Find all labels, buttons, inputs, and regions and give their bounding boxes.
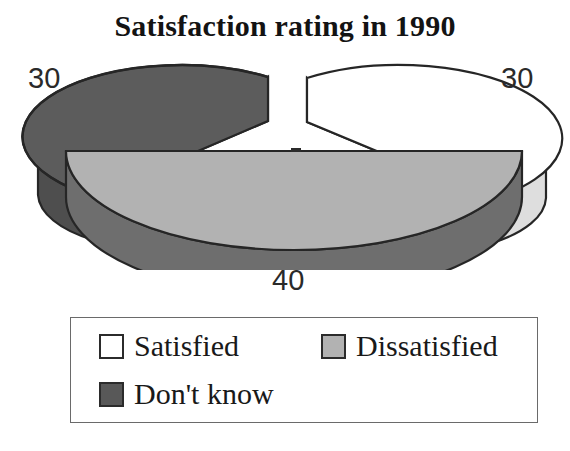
chart-title: Satisfaction rating in 1990 bbox=[0, 9, 570, 43]
legend-label-dissatisfied: Dissatisfied bbox=[356, 331, 498, 361]
legend-item-satisfied: Satisfied bbox=[99, 324, 239, 368]
legend-row: Don't know bbox=[71, 372, 537, 422]
legend-swatch-dissatisfied-icon bbox=[321, 334, 346, 359]
value-label-dont-know: 30 bbox=[28, 64, 60, 93]
pie-slice-dissatisfied bbox=[66, 151, 522, 270]
value-label-dissatisfied: 40 bbox=[272, 266, 304, 295]
pie-chart-graphic bbox=[0, 55, 570, 270]
value-label-satisfied: 30 bbox=[501, 64, 533, 93]
legend-row: Satisfied Dissatisfied bbox=[71, 324, 537, 374]
chart-legend: Satisfied Dissatisfied Don't know bbox=[70, 317, 538, 423]
pie-center-pivot bbox=[291, 148, 301, 152]
legend-swatch-satisfied-icon bbox=[99, 334, 124, 359]
legend-swatch-dont-know-icon bbox=[99, 382, 124, 407]
legend-item-dont-know: Don't know bbox=[99, 372, 274, 416]
legend-label-dont-know: Don't know bbox=[134, 379, 274, 409]
legend-item-dissatisfied: Dissatisfied bbox=[321, 324, 498, 368]
legend-label-satisfied: Satisfied bbox=[134, 331, 239, 361]
pie-chart-figure: Satisfaction rating in 1990 bbox=[0, 0, 570, 451]
pie-chart-svg bbox=[0, 55, 570, 270]
